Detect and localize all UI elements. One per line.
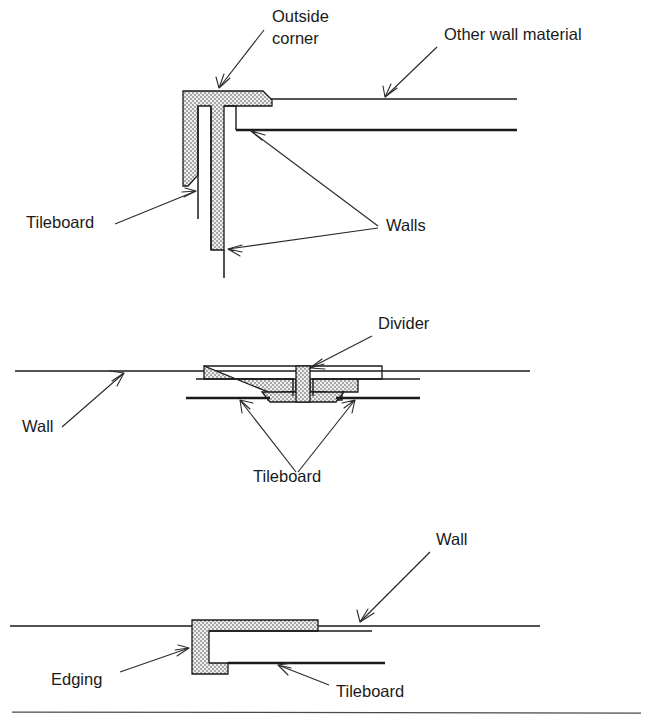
other-wall-material-shape	[236, 99, 517, 130]
panel-outside-corner: Outside corner Other wall material Tileb…	[26, 7, 582, 278]
leader-walls	[228, 130, 378, 256]
label-tileboard-1: Tileboard	[26, 213, 94, 231]
leader-other-wall-material	[383, 47, 437, 97]
label-outside-corner-line2: corner	[272, 29, 319, 47]
label-other-wall-material: Other wall material	[444, 25, 582, 43]
leader-tileboard-1	[115, 188, 196, 224]
tileboard-details-figure: Outside corner Other wall material Tileb…	[0, 0, 653, 728]
label-tileboard-bottom: Tileboard	[336, 682, 404, 700]
leader-wall-middle	[62, 371, 124, 427]
label-walls: Walls	[386, 216, 426, 234]
tileboard-panel-left	[198, 106, 211, 250]
leader-edging	[120, 645, 189, 672]
panel-edging: Wall Edging Tileboard	[10, 530, 540, 700]
page-bottom-rule	[12, 712, 641, 713]
label-wall-bottom: Wall	[436, 530, 467, 548]
label-divider: Divider	[378, 314, 430, 332]
tileboard-panel-bottom	[209, 631, 385, 663]
figure-root: Outside corner Other wall material Tileb…	[0, 0, 653, 728]
leader-divider	[310, 336, 372, 369]
label-wall-middle: Wall	[22, 417, 53, 435]
leader-tileboard-middle	[240, 400, 355, 472]
leader-outside-corner	[216, 30, 264, 88]
outside-corner-moulding	[183, 91, 272, 250]
wall-return-face	[224, 106, 236, 130]
edging-moulding	[192, 620, 318, 674]
leader-tileboard-bottom	[278, 663, 329, 685]
leader-wall-bottom	[357, 552, 430, 622]
panel-divider: Divider Wall Tileboard	[15, 314, 530, 485]
label-tileboard-middle: Tileboard	[253, 467, 321, 485]
label-outside-corner-line1: Outside	[272, 7, 329, 25]
label-edging: Edging	[51, 670, 102, 688]
